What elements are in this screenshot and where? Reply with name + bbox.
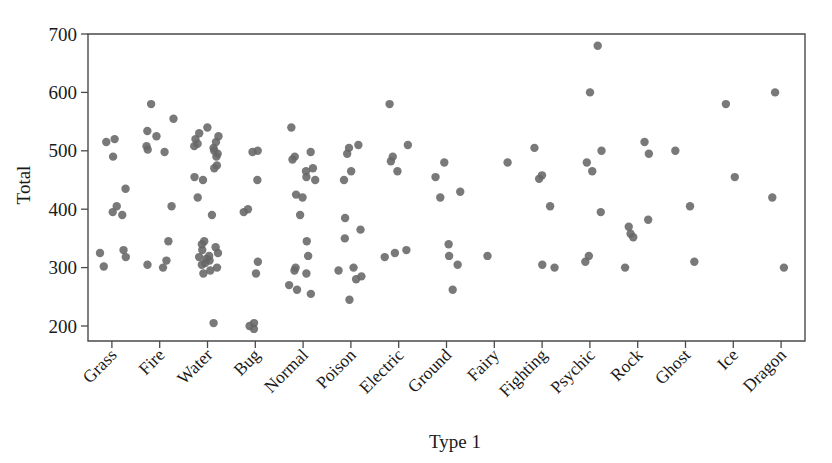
data-point — [597, 147, 605, 155]
data-point — [252, 269, 260, 277]
data-point — [385, 100, 393, 108]
data-point — [240, 208, 248, 216]
data-point — [456, 187, 464, 195]
data-point — [109, 152, 117, 160]
data-point — [143, 260, 151, 268]
data-point — [402, 246, 410, 254]
data-point — [122, 253, 130, 261]
data-point — [287, 123, 295, 131]
data-point — [298, 193, 306, 201]
data-point — [209, 319, 217, 327]
y-tick-label: 600 — [49, 82, 78, 103]
data-point — [444, 240, 452, 248]
data-point — [356, 225, 364, 233]
data-point — [285, 281, 293, 289]
data-point — [144, 145, 152, 153]
data-point — [483, 252, 491, 260]
data-point — [302, 173, 310, 181]
data-point — [387, 157, 395, 165]
data-point — [404, 141, 412, 149]
data-point — [110, 135, 118, 143]
data-point — [152, 132, 160, 140]
data-point — [503, 158, 511, 166]
data-point — [352, 275, 360, 283]
data-point — [190, 142, 198, 150]
data-point — [381, 253, 389, 261]
data-point — [343, 150, 351, 158]
data-point — [248, 148, 256, 156]
data-point — [583, 158, 591, 166]
data-point — [690, 258, 698, 266]
data-point — [349, 263, 357, 271]
data-point — [334, 266, 342, 274]
data-point — [100, 262, 108, 270]
data-point — [118, 211, 126, 219]
data-point — [625, 223, 633, 231]
data-point — [581, 258, 589, 266]
data-point — [254, 258, 262, 266]
data-point — [296, 211, 304, 219]
data-point — [393, 167, 401, 175]
data-point — [594, 41, 602, 49]
y-tick-label: 200 — [49, 316, 78, 337]
data-point — [210, 164, 218, 172]
data-point — [645, 150, 653, 158]
data-point — [640, 138, 648, 146]
data-point — [288, 155, 296, 163]
data-point — [431, 173, 439, 181]
data-point — [311, 176, 319, 184]
data-point — [341, 214, 349, 222]
data-point — [436, 193, 444, 201]
data-point — [109, 208, 117, 216]
x-axis-label: Type 1 — [429, 431, 481, 452]
data-point — [345, 296, 353, 304]
data-point — [253, 176, 261, 184]
data-point — [307, 290, 315, 298]
data-point — [550, 263, 558, 271]
data-point — [354, 141, 362, 149]
data-point — [199, 269, 207, 277]
data-point — [208, 211, 216, 219]
y-tick-label: 400 — [49, 199, 78, 220]
data-point — [169, 114, 177, 122]
data-point — [102, 138, 110, 146]
data-point — [190, 173, 198, 181]
data-point — [304, 252, 312, 260]
y-axis-label: Total — [13, 166, 34, 205]
data-point — [586, 88, 594, 96]
data-point — [588, 167, 596, 175]
data-point — [340, 176, 348, 184]
data-point — [671, 147, 679, 155]
data-point — [167, 202, 175, 210]
data-point — [629, 233, 637, 241]
plot-canvas: 200300400500600700 GrassFireWaterBugNorm… — [0, 0, 832, 463]
data-point — [96, 249, 104, 257]
data-point — [121, 185, 129, 193]
data-point — [160, 148, 168, 156]
data-point — [546, 202, 554, 210]
data-point — [780, 263, 788, 271]
data-point — [290, 266, 298, 274]
data-point — [164, 237, 172, 245]
data-point — [440, 158, 448, 166]
data-point — [293, 286, 301, 294]
data-point — [341, 234, 349, 242]
y-tick-label: 700 — [49, 24, 78, 45]
data-point — [391, 249, 399, 257]
data-point — [214, 249, 222, 257]
data-point — [644, 216, 652, 224]
data-point — [203, 123, 211, 131]
data-point — [250, 325, 258, 333]
data-point — [538, 260, 546, 268]
data-point — [212, 152, 220, 160]
data-point — [198, 260, 206, 268]
data-point — [530, 144, 538, 152]
data-point — [347, 167, 355, 175]
data-point — [302, 269, 310, 277]
data-point — [159, 263, 167, 271]
data-point — [453, 260, 461, 268]
data-point — [597, 208, 605, 216]
data-point — [147, 100, 155, 108]
data-point — [195, 253, 203, 261]
data-point — [199, 176, 207, 184]
